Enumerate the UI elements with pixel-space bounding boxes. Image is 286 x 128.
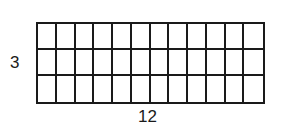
grid-cell — [76, 24, 95, 50]
grid-cell — [94, 76, 113, 102]
grid-cell — [244, 76, 263, 102]
grid-cell — [132, 76, 151, 102]
grid-cell — [244, 50, 263, 76]
grid-cell — [76, 50, 95, 76]
grid-cell — [57, 50, 76, 76]
grid-cell — [57, 76, 76, 102]
grid-cell — [38, 50, 57, 76]
grid-cell — [151, 76, 170, 102]
row-count-label: 3 — [10, 54, 19, 71]
grid-cell — [188, 50, 207, 76]
array-grid — [36, 22, 265, 104]
grid-cell — [113, 24, 132, 50]
grid-cell — [113, 50, 132, 76]
grid-cell — [226, 76, 245, 102]
grid-cell — [94, 24, 113, 50]
grid-cell — [226, 50, 245, 76]
grid-cell — [76, 76, 95, 102]
grid-cell — [169, 50, 188, 76]
grid-cell — [207, 50, 226, 76]
grid-cell — [151, 24, 170, 50]
grid-cell — [207, 24, 226, 50]
grid-cell — [207, 76, 226, 102]
grid-cell — [113, 76, 132, 102]
grid-cell — [132, 24, 151, 50]
grid-cell — [188, 24, 207, 50]
grid-cell — [38, 76, 57, 102]
grid-cell — [94, 50, 113, 76]
grid-cell — [57, 24, 76, 50]
grid-cell — [169, 76, 188, 102]
grid-cell — [226, 24, 245, 50]
grid-cell — [188, 76, 207, 102]
grid-cell — [38, 24, 57, 50]
grid-cell — [151, 50, 170, 76]
grid-cell — [244, 24, 263, 50]
grid-cell — [132, 50, 151, 76]
grid-cell — [169, 24, 188, 50]
column-count-label: 12 — [138, 108, 157, 125]
